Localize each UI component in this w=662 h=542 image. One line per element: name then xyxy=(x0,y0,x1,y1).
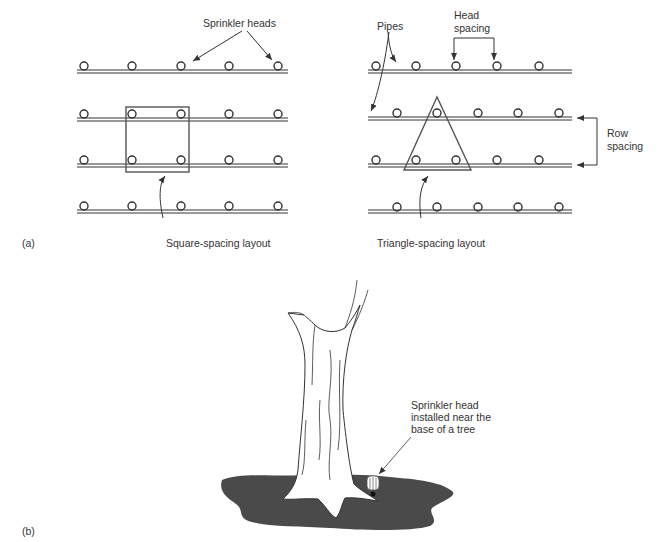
square-layout xyxy=(77,31,288,218)
triangle-layout xyxy=(368,32,597,218)
pipe-row-2 xyxy=(368,117,572,120)
callout-tree-sprinkler-1: Sprinkler head xyxy=(411,399,479,411)
callout-row-spacing-1: Row xyxy=(607,127,628,139)
callout-row-spacing-2: spacing xyxy=(607,140,643,152)
pipe-row-1 xyxy=(368,70,572,73)
callout-pipes: Pipes xyxy=(377,20,403,32)
callout-head-spacing-1: Head xyxy=(454,9,479,21)
panel-label-a: (a) xyxy=(22,237,35,249)
caption-triangle-layout: Triangle-spacing layout xyxy=(377,237,485,249)
diagram-canvas xyxy=(0,0,662,542)
callout-sprinkler-heads: Sprinkler heads xyxy=(203,17,276,29)
panel-label-b: (b) xyxy=(22,525,35,537)
callout-tree-sprinkler-3: base of a tree xyxy=(411,423,475,435)
caption-square-layout: Square-spacing layout xyxy=(166,237,270,249)
callout-head-spacing-2: spacing xyxy=(454,22,490,34)
triangle-outline xyxy=(404,97,471,170)
sprinkler-heads-triangle xyxy=(372,62,563,211)
callout-tree-sprinkler-2: installed near the xyxy=(411,411,491,423)
sprinkler-heads-square xyxy=(80,62,282,210)
